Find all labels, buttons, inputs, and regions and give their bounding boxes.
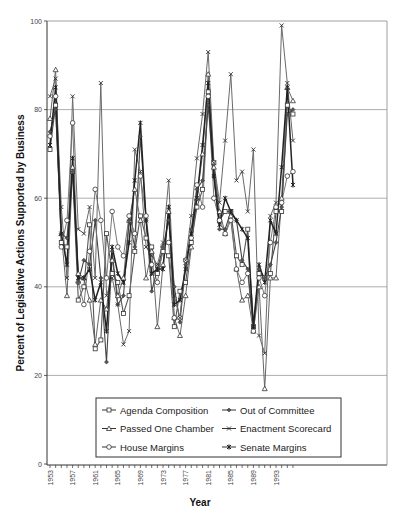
line-chart: 020406080100 195319571961196519691973197…	[0, 0, 404, 524]
y-tick-label: 100	[30, 18, 42, 25]
series-layer	[48, 23, 296, 390]
legend-label: Out of Committee	[240, 405, 314, 416]
x-tick-label: 1981	[205, 470, 212, 486]
y-tick-label: 0	[38, 461, 42, 468]
x-tick-label: 1993	[273, 470, 280, 486]
x-tick-label: 1969	[137, 470, 144, 486]
y-axis-title: Percent of Legislative Actions Supported…	[15, 114, 26, 371]
x-tick-label: 1977	[182, 470, 189, 486]
x-tick-label: 1961	[92, 470, 99, 486]
y-tick-label: 60	[34, 195, 42, 202]
y-tick-label: 80	[34, 106, 42, 113]
gridlines	[47, 110, 387, 376]
x-axis-title: Year	[189, 497, 210, 508]
y-tick-label: 20	[34, 372, 42, 379]
x-tick-label: 1985	[227, 470, 234, 486]
legend-label: Enactment Scorecard	[240, 423, 331, 434]
x-tick-label: 1973	[160, 470, 167, 486]
x-tick-label: 1965	[114, 470, 121, 486]
x-tick-label: 1989	[250, 470, 257, 486]
legend-label: Senate Margins	[240, 442, 307, 453]
x-tick-label: 1957	[69, 470, 76, 486]
x-tick-label: 1953	[47, 470, 54, 486]
legend-label: Passed One Chamber	[120, 423, 214, 434]
legend-label: Agenda Composition	[120, 405, 208, 416]
legend: Agenda CompositionOut of CommitteePassed…	[96, 398, 341, 457]
x-tick-labels: 1953195719611965196919731977198119851989…	[47, 465, 293, 486]
y-tick-label: 40	[34, 283, 42, 290]
legend-label: House Margins	[120, 442, 184, 453]
y-tick-labels: 020406080100	[30, 18, 47, 468]
